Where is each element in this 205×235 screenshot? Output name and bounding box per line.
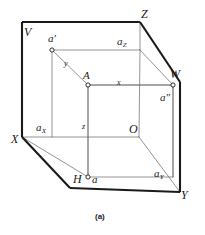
point-marker-aprime bbox=[50, 48, 54, 52]
point-marker-a bbox=[86, 175, 90, 179]
foot-label-aX-sub: X bbox=[42, 127, 47, 135]
coord-label-y: y bbox=[64, 60, 68, 68]
line-aZ-to-O bbox=[139, 50, 140, 137]
foot-label-aY-base: a bbox=[154, 167, 160, 179]
point-label-a-top: a bbox=[92, 174, 98, 185]
line-O-to-Y bbox=[139, 137, 180, 192]
axis-label-O: O bbox=[129, 123, 138, 135]
plane-label-V: V bbox=[24, 26, 31, 38]
axis-label-Z: Z bbox=[141, 8, 148, 20]
axis-label-X: X bbox=[11, 133, 18, 145]
foot-label-aX-base: a bbox=[36, 121, 42, 133]
foot-label-aZ-sub: Z bbox=[123, 41, 127, 49]
projection-figure: V H W X Y Z O A a′ a a″ aX aY aZ x y z (… bbox=[0, 0, 205, 235]
point-marker-A bbox=[86, 83, 90, 87]
foot-label-aY: aY bbox=[154, 168, 164, 181]
axis-label-Y: Y bbox=[181, 189, 188, 201]
foot-label-aX: aX bbox=[36, 122, 46, 135]
line-aZ-to-W bbox=[140, 50, 173, 85]
plane-label-H: H bbox=[73, 173, 82, 185]
foot-label-aZ: aZ bbox=[117, 36, 127, 49]
plane-label-W: W bbox=[170, 68, 180, 80]
point-label-a-front: a′ bbox=[48, 33, 56, 44]
foot-label-aZ-base: a bbox=[117, 35, 123, 47]
foot-label-aY-sub: Y bbox=[160, 173, 164, 181]
plane-H-bottom-edge bbox=[70, 188, 180, 192]
coord-label-x: x bbox=[117, 79, 121, 87]
coord-label-z: z bbox=[82, 123, 85, 131]
point-marker-asecond bbox=[171, 83, 175, 87]
point-label-a-side: a″ bbox=[160, 92, 170, 103]
point-label-A: A bbox=[83, 70, 90, 81]
plane-H-left-edge bbox=[22, 137, 70, 188]
figure-caption: (a) bbox=[95, 212, 105, 221]
